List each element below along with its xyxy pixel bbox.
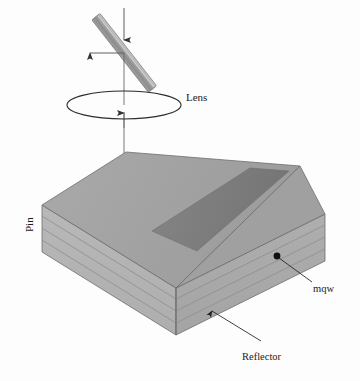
figure-root: Lens Pin xyxy=(0,0,360,381)
pin-label: Pin xyxy=(23,217,35,232)
optical-setup-diagram: Lens Pin xyxy=(0,0,360,381)
lens-label: Lens xyxy=(186,91,207,103)
reflector-leader-arrow xyxy=(212,311,261,341)
mqw-label: mqw xyxy=(313,283,334,294)
beam-splitter-highlight xyxy=(98,16,153,87)
reflector-callout xyxy=(212,311,261,341)
reflector-label: Reflector xyxy=(242,351,282,362)
layered-slab xyxy=(42,152,325,335)
